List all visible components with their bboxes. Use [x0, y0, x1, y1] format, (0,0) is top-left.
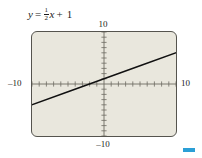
graph-canvas	[32, 32, 176, 136]
axis-label-left: –10	[8, 79, 22, 88]
equation-plus-sign: +	[55, 9, 65, 20]
axis-label-right: 10	[181, 79, 190, 88]
graph-viewing-window	[31, 31, 177, 137]
blue-swatch-marker	[183, 148, 195, 152]
axis-label-bottom: –10	[2, 140, 202, 149]
equation-equals-sign: =	[33, 9, 43, 20]
fraction-numerator: 1	[44, 7, 50, 14]
axis-label-top: 10	[2, 20, 202, 29]
equation-constant: 1	[65, 9, 75, 20]
